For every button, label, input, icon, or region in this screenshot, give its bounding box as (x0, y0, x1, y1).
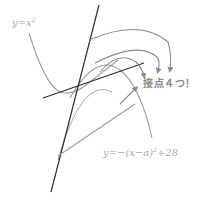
arrow-1 (89, 29, 171, 70)
arrow-3 (100, 58, 144, 76)
tangent-line-steep (51, 5, 99, 192)
label-upper-parabola-base: y=x (12, 17, 32, 28)
arrow-2 (95, 50, 159, 71)
tangent-line-shallow (43, 63, 144, 98)
label-lower-parabola: y=−(x−a)2+28 (103, 146, 178, 158)
parabola-upper (29, 33, 118, 93)
callout-label: 接点４つ！ (143, 75, 196, 90)
arrow-4 (120, 88, 136, 104)
label-upper-parabola: y=x2 (12, 16, 36, 28)
label-lower-parabola-main: y=−(x−a) (103, 147, 153, 158)
label-upper-parabola-exp: 2 (32, 16, 36, 23)
diagram-canvas (0, 0, 199, 201)
label-lower-parabola-tail: +28 (157, 147, 178, 158)
